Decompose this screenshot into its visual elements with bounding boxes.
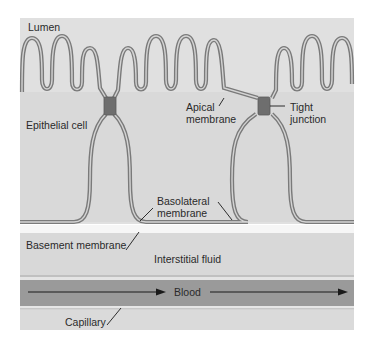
- blood-label: Blood: [174, 286, 201, 298]
- tight-junction-label-2: junction: [290, 113, 326, 125]
- basolateral-membrane-label-1: Basolateral: [157, 195, 210, 207]
- interstitial-fluid-label: Interstitial fluid: [154, 253, 221, 265]
- tight-junction-right: [258, 97, 270, 115]
- epithelial-cell-label: Epithelial cell: [26, 119, 87, 131]
- apical-membrane-label-2: membrane: [186, 113, 236, 125]
- tight-junction-label-1: Tight: [290, 101, 313, 113]
- basement-membrane: [20, 225, 354, 233]
- tight-junction-left: [104, 97, 116, 115]
- basement-membrane-label: Basement membrane: [26, 239, 126, 251]
- apical-membrane-label-1: Apical: [186, 101, 215, 113]
- basolateral-membrane-label-2: membrane: [157, 207, 207, 219]
- capillary-label: Capillary: [65, 316, 106, 328]
- lumen-label: Lumen: [28, 21, 60, 33]
